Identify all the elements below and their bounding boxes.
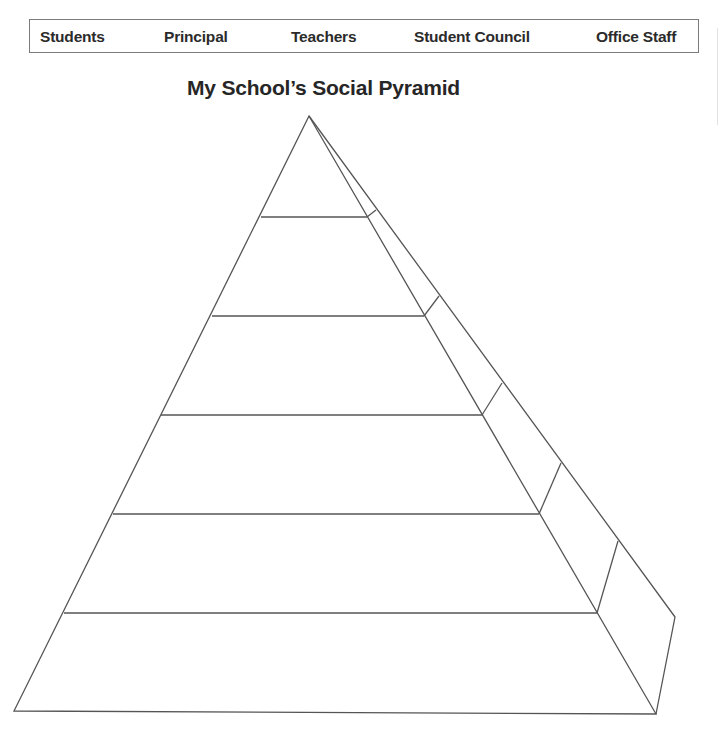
social-pyramid (0, 0, 719, 730)
side-tier-line-4 (539, 463, 561, 514)
side-tier-line-5 (597, 541, 618, 613)
side-tier-line-1 (367, 210, 376, 217)
side-tier-line-3 (482, 383, 502, 415)
side-tier-line-2 (424, 296, 439, 316)
